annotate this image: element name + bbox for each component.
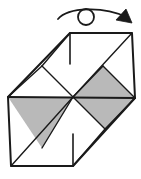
center-horizontal-fold	[8, 97, 135, 98]
origami-figure-svg	[0, 0, 141, 179]
origami-diagram	[0, 0, 141, 179]
